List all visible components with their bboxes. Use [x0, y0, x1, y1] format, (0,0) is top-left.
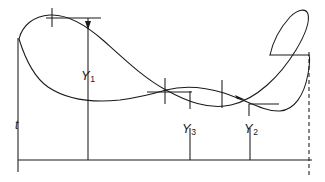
label-y3: Y3	[182, 122, 196, 136]
label-t-base: t	[15, 118, 18, 132]
arrowhead-y1-icon	[85, 21, 91, 30]
bracket-y2-marker	[249, 104, 279, 116]
arrowhead-lower-curve-icon	[235, 95, 246, 100]
loop-curve-diagram	[0, 0, 325, 182]
curve-lower-branch	[19, 39, 310, 111]
figure-container: Y1 Y3 Y2 t	[0, 0, 325, 182]
label-y1-subscript: 1	[90, 74, 95, 84]
label-y2: Y2	[244, 122, 258, 136]
label-t: t	[15, 119, 18, 131]
label-y3-subscript: 3	[191, 127, 196, 137]
label-y2-base: Y	[244, 121, 253, 136]
label-y1-base: Y	[81, 68, 90, 83]
label-y2-subscript: 2	[253, 127, 258, 137]
label-y3-base: Y	[182, 121, 191, 136]
label-y1: Y1	[81, 69, 95, 83]
